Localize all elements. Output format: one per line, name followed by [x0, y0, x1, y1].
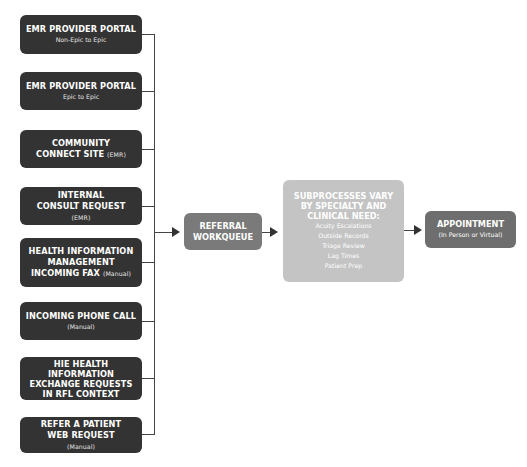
source-title: INCOMING PHONE CALL [26, 311, 136, 322]
appointment-sub: (In Person or Virtual) [439, 230, 503, 240]
source-title: REFER A PATIENT WEB REQUEST [41, 419, 122, 440]
source-suffix: (EMR) [107, 151, 126, 158]
source-him-fax: HEALTH INFORMATION MANAGEMENT INCOMING F… [20, 238, 142, 287]
subprocess-item: Acuity Escalations [315, 221, 371, 231]
subprocess-item: Triage Review [322, 241, 365, 251]
connector-6 [142, 321, 154, 322]
source-title-wrap: REFER A PATIENT WEB REQUEST (Manual) [32, 419, 130, 452]
arrow-to-subprocess-icon [270, 227, 278, 237]
arrow-to-appointment-icon [414, 225, 422, 235]
source-emr-portal-epic: EMR PROVIDER PORTAL Epic to Epic [20, 72, 142, 110]
connector-8 [142, 434, 154, 435]
source-title-wrap: HEALTH INFORMATION MANAGEMENT INCOMING F… [24, 246, 138, 279]
subprocess-item: Patient Prep [325, 261, 362, 271]
referral-title: REFERRAL WORKQUEUE [183, 221, 263, 243]
arrow-to-referral-icon [172, 227, 180, 237]
source-web-request: REFER A PATIENT WEB REQUEST (Manual) [20, 417, 142, 453]
source-sub: Non-Epic to Epic [56, 35, 107, 45]
appointment-title: APPOINTMENT [437, 219, 504, 230]
source-suffix: (Manual) [103, 270, 131, 277]
connector-4 [142, 206, 154, 207]
referral-workqueue-box: REFERRAL WORKQUEUE [184, 213, 262, 250]
subprocess-item: Outside Records [318, 231, 368, 241]
source-sub: (Manual) [67, 322, 94, 332]
subprocess-item: Lag Times [328, 251, 360, 261]
subprocess-box: SUBPROCESSES VARY BY SPECIALTY AND CLINI… [283, 180, 404, 282]
source-title: INTERNAL CONSULT REQUEST [37, 190, 126, 211]
source-title: EMR PROVIDER PORTAL [26, 81, 136, 92]
connector-2 [142, 91, 154, 92]
connector-1 [142, 34, 154, 35]
connector-7 [142, 378, 154, 379]
source-title-wrap: INTERNAL CONSULT REQUEST (EMR) [36, 190, 126, 223]
source-title-wrap: COMMUNITY CONNECT SITE (EMR) [34, 138, 128, 160]
source-internal-consult: INTERNAL CONSULT REQUEST (EMR) [20, 187, 142, 225]
connector-3 [142, 149, 154, 150]
source-sub: Epic to Epic [63, 92, 99, 102]
source-emr-portal-non-epic: EMR PROVIDER PORTAL Non-Epic to Epic [20, 15, 142, 54]
appointment-box: APPOINTMENT (In Person or Virtual) [425, 211, 516, 248]
source-title: HIE HEALTH INFORMATION EXCHANGE REQUESTS… [24, 359, 138, 399]
source-suffix: (Manual) [67, 443, 95, 450]
subprocess-title: SUBPROCESSES VARY BY SPECIALTY AND CLINI… [291, 191, 396, 221]
source-title: COMMUNITY CONNECT SITE [36, 138, 110, 159]
source-title: EMR PROVIDER PORTAL [26, 24, 136, 35]
arrow-to-referral-line [154, 232, 174, 233]
connector-5 [142, 262, 154, 263]
source-community-connect: COMMUNITY CONNECT SITE (EMR) [20, 130, 142, 168]
source-phone-call: INCOMING PHONE CALL (Manual) [20, 302, 142, 340]
source-hie-requests: HIE HEALTH INFORMATION EXCHANGE REQUESTS… [20, 357, 142, 400]
connector-trunk [154, 34, 155, 435]
source-suffix: (EMR) [72, 214, 91, 221]
